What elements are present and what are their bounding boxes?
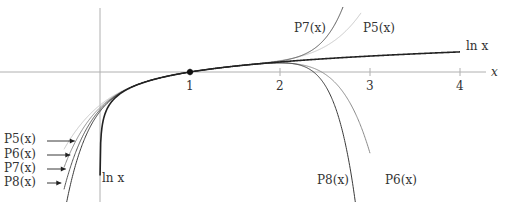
p5-label-left: P5(x) <box>4 133 36 145</box>
x-tick-1: 1 <box>186 80 194 92</box>
p8-label-bottom: P8(x) <box>317 174 349 186</box>
x-tick-3: 3 <box>366 80 374 92</box>
x-tick-4: 4 <box>456 80 464 92</box>
p6-label-left: P6(x) <box>4 148 36 160</box>
arrowhead-icon <box>61 167 66 172</box>
p7-label-left: P7(x) <box>4 162 36 174</box>
p8-label-left: P8(x) <box>4 176 36 188</box>
ln-label-right: ln x <box>466 40 488 52</box>
arrowhead-icon <box>70 139 75 144</box>
ln-label-bottom: ln x <box>102 172 124 184</box>
x-tick-2: 2 <box>276 80 284 92</box>
taylor-polynomial-figure: x 1 2 3 4 ln x ln x P7(x) P5(x) P8(x) P6… <box>0 0 506 202</box>
center-point <box>187 69 193 75</box>
p7-label-top: P7(x) <box>294 22 326 34</box>
p6-label-bottom: P6(x) <box>385 174 417 186</box>
arrowhead-icon <box>56 181 61 186</box>
plot-area <box>0 0 506 202</box>
x-axis-label: x <box>491 66 498 78</box>
p6-curve <box>64 63 370 167</box>
p5-label-top: P5(x) <box>363 22 395 34</box>
